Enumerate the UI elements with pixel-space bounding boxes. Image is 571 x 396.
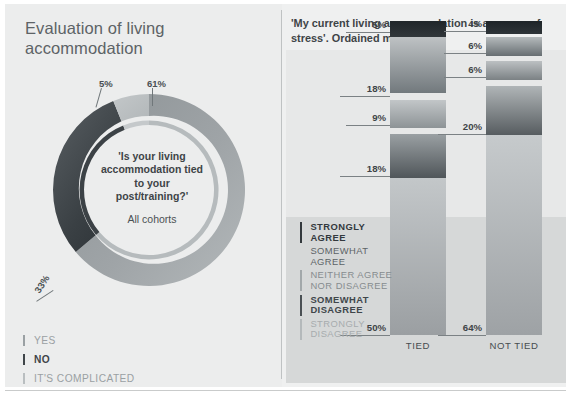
bar-value-rule [438, 134, 486, 135]
legend-swatch-icon [300, 270, 302, 291]
bar-value-not-tied-somewhat-agree: 6% [444, 40, 482, 51]
bar-value-rule [438, 335, 486, 336]
bar-column-tied[interactable] [390, 21, 446, 335]
donut-value-yes: 61% [147, 78, 166, 89]
legend-swatch-icon [300, 295, 302, 316]
bottom-rule [5, 390, 566, 391]
legend-label: NO [34, 354, 50, 365]
bar-column-not-tied[interactable] [486, 21, 542, 335]
bar-segment-neither[interactable] [486, 61, 542, 80]
left-panel: Evaluation of living accommodation [5, 4, 281, 387]
bar-segment-strongly-agree[interactable] [390, 21, 446, 37]
bar-value-rule [346, 32, 390, 33]
donut-center-question: 'Is your living accommodation tied to yo… [99, 150, 205, 204]
legend-swatch-icon [300, 222, 302, 243]
donut-center-text: 'Is your living accommodation tied to yo… [99, 150, 205, 225]
bar-value-not-tied-neither: 6% [444, 64, 482, 75]
bar-value-tied-neither: 9% [346, 112, 386, 123]
legend-swatch-icon [23, 335, 25, 346]
legend-item-yes[interactable]: YES [23, 331, 135, 350]
donut-value-complicated: 5% [99, 78, 113, 89]
scale-legend-item-neither[interactable]: NEITHER AGREE NOR DISAGREE [300, 270, 392, 291]
bar-value-not-tied-strongly-disagree: 64% [438, 322, 482, 333]
bar-value-rule [346, 125, 390, 126]
legend-item-complicated[interactable]: IT'S COMPLICATED [23, 369, 135, 388]
donut-center-subtitle: All cohorts [99, 213, 205, 225]
bar-scale-legend: STRONGLY AGREE SOMEWHAT AGREE NEITHER AG… [300, 222, 392, 343]
legend-label: IT'S COMPLICATED [34, 373, 135, 384]
scale-legend-item-somewhat-disagree[interactable]: SOMEWHAT DISAGREE [300, 295, 392, 316]
bar-value-rule [444, 31, 486, 32]
bar-value-not-tied-somewhat-disagree: 20% [438, 121, 482, 132]
bar-value-tied-somewhat-agree: 18% [340, 83, 386, 94]
bar-segment-strongly-disagree[interactable] [486, 135, 542, 335]
legend-swatch-icon [23, 373, 25, 384]
legend-swatch-icon [300, 246, 302, 267]
bar-value-not-tied-strongly-agree: 4% [444, 18, 482, 29]
scale-legend-item-strongly-disagree[interactable]: STRONGLY DISAGREE [300, 319, 392, 340]
bar-segment-somewhat-agree[interactable] [390, 37, 446, 94]
bar-value-tied-somewhat-disagree: 18% [340, 163, 386, 174]
scale-legend-item-strongly-agree[interactable]: STRONGLY AGREE [300, 222, 392, 243]
scale-legend-item-somewhat-agree[interactable]: SOMEWHAT AGREE [300, 246, 392, 267]
legend-swatch-icon [23, 354, 25, 365]
bar-segment-strongly-agree[interactable] [486, 21, 542, 34]
scale-legend-label: NEITHER AGREE NOR DISAGREE [310, 270, 392, 291]
donut-leader-line-yes [152, 88, 153, 106]
legend-item-no[interactable]: NO [23, 350, 135, 369]
scale-legend-label: SOMEWHAT AGREE [310, 246, 368, 267]
bar-value-rule [444, 77, 486, 78]
bar-value-tied-strongly-agree: 5% [346, 19, 386, 30]
bar-value-rule [444, 53, 486, 54]
scale-legend-label: SOMEWHAT DISAGREE [310, 295, 369, 316]
donut-chart: 'Is your living accommodation tied to yo… [27, 66, 271, 314]
bar-axis-label-not-tied: NOT TIED [469, 340, 559, 351]
legend-swatch-icon [300, 319, 302, 340]
bar-value-rule [340, 96, 390, 97]
scale-legend-label: STRONGLY AGREE [310, 222, 365, 243]
bar-segment-somewhat-agree[interactable] [486, 37, 542, 56]
scale-legend-label: STRONGLY DISAGREE [310, 319, 364, 340]
legend-label: YES [34, 335, 56, 346]
left-panel-title: Evaluation of living accommodation [25, 18, 255, 58]
bar-value-rule [340, 176, 390, 177]
bar-segment-strongly-disagree[interactable] [390, 178, 446, 335]
infographic-page: Evaluation of living accommodation [0, 0, 571, 396]
donut-legend: YES NO IT'S COMPLICATED [23, 331, 135, 388]
